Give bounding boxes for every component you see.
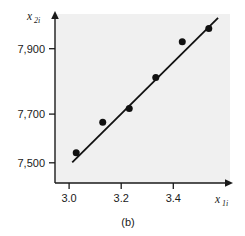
scatter-plot: 7,900 7,700 7,500 3.0 3.2 3.4 x 2i x 1i … xyxy=(0,0,245,236)
x-axis-title-subscript: 1i xyxy=(222,199,228,208)
data-point xyxy=(126,105,133,112)
data-point xyxy=(179,38,186,45)
y-tick-label: 7,900 xyxy=(17,43,45,55)
y-tick-label: 7,500 xyxy=(17,157,45,169)
y-axis-ticks xyxy=(49,49,55,163)
x-axis-ticks xyxy=(69,183,173,189)
x-tick-label: 3.2 xyxy=(114,192,129,204)
x-tick-label: 3.0 xyxy=(61,192,76,204)
x-tick-label: 3.4 xyxy=(166,192,181,204)
data-point xyxy=(205,25,212,32)
x-axis-title: x 1i xyxy=(214,193,228,208)
data-point xyxy=(152,74,159,81)
y-axis-title: x 2i xyxy=(26,10,40,25)
data-point xyxy=(73,149,80,156)
y-tick-label: 7,700 xyxy=(17,108,45,120)
plot-area-background xyxy=(55,14,230,183)
y-axis-title-base: x xyxy=(26,10,33,22)
figure-panel: 7,900 7,700 7,500 3.0 3.2 3.4 x 2i x 1i … xyxy=(0,0,245,236)
y-axis-title-subscript: 2i xyxy=(34,16,40,25)
figure-caption: (b) xyxy=(121,216,134,228)
data-point xyxy=(99,119,106,126)
x-axis-title-base: x xyxy=(214,193,221,205)
